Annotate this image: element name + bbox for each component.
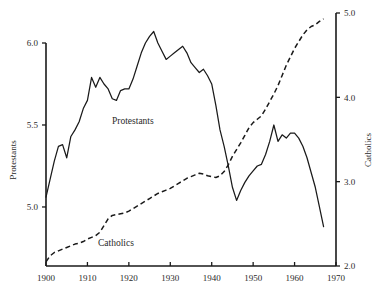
left-tick-label: 5.5 <box>27 120 39 130</box>
series-annotation-catholics: Catholics <box>98 238 134 248</box>
x-axis-ticks: 19001910192019301940195019601970 <box>37 262 346 283</box>
x-tick-label: 1950 <box>244 273 263 283</box>
series-group <box>46 19 324 262</box>
right-tick-label: 3.0 <box>344 177 356 187</box>
left-axis-title: Protestants <box>8 140 18 180</box>
x-tick-label: 1960 <box>286 273 305 283</box>
x-tick-label: 1970 <box>327 273 346 283</box>
left-tick-label: 6.0 <box>27 38 39 48</box>
chart-container: 5.05.56.0 2.03.04.05.0 19001910192019301… <box>0 0 382 295</box>
right-tick-label: 2.0 <box>344 261 356 271</box>
x-tick-label: 1940 <box>203 273 222 283</box>
x-tick-label: 1930 <box>161 273 180 283</box>
x-tick-label: 1900 <box>37 273 56 283</box>
series-line-catholics <box>46 19 324 262</box>
right-axis-title: Catholics <box>363 133 373 167</box>
right-tick-label: 5.0 <box>344 8 356 18</box>
series-annotation-protestants: Protestants <box>112 116 154 126</box>
series-line-protestants <box>46 32 324 227</box>
line-chart: 5.05.56.0 2.03.04.05.0 19001910192019301… <box>0 0 382 295</box>
x-tick-label: 1920 <box>120 273 139 283</box>
x-tick-label: 1910 <box>78 273 97 283</box>
right-tick-label: 4.0 <box>344 93 356 103</box>
left-tick-label: 5.0 <box>27 202 39 212</box>
right-axis-ticks: 2.03.04.05.0 <box>336 8 356 271</box>
left-axis-ticks: 5.05.56.0 <box>27 38 46 212</box>
